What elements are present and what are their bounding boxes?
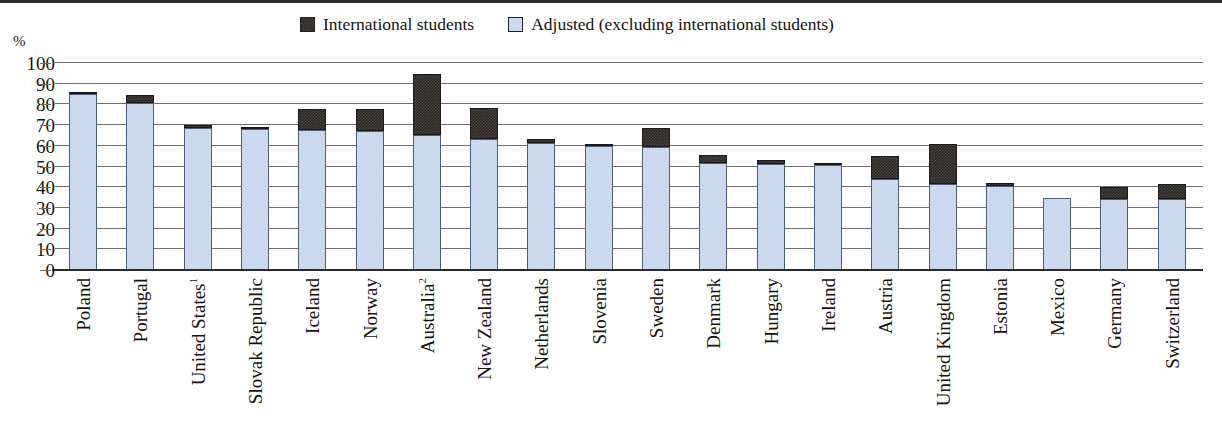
bar-segment-international xyxy=(929,144,957,184)
gridline-50 xyxy=(55,166,1203,167)
y-tick-mark-10 xyxy=(40,249,51,250)
gridline-30 xyxy=(55,207,1203,208)
legend-swatch-adjusted-icon xyxy=(508,17,523,32)
gridline-40 xyxy=(55,186,1203,187)
legend-swatch-international-students-icon xyxy=(300,17,315,32)
bar-segment-adjusted xyxy=(699,163,727,270)
gridline-90 xyxy=(55,83,1203,84)
chart-container: International students Adjusted (excludi… xyxy=(0,0,1222,433)
y-tick-mark-90 xyxy=(40,84,51,85)
bar-segment-adjusted xyxy=(184,128,212,270)
bar-segment-adjusted xyxy=(413,135,441,270)
y-tick-mark-20 xyxy=(40,229,51,230)
bar-segment-adjusted xyxy=(356,131,384,270)
bar-segment-international xyxy=(69,92,97,94)
bar-segment-adjusted xyxy=(642,147,670,270)
x-label-text: Ireland xyxy=(818,278,837,332)
x-label-text: Portugal xyxy=(131,278,150,342)
y-tick-mark-40 xyxy=(40,187,51,188)
x-label-text: Hungary xyxy=(761,278,780,344)
y-tick-mark-80 xyxy=(40,104,51,105)
y-tick-mark-0 xyxy=(40,270,51,271)
bar-segment-adjusted xyxy=(986,186,1014,270)
gridline-70 xyxy=(55,124,1203,125)
bar-segment-adjusted xyxy=(470,139,498,270)
x-label-footnote-marker: 2 xyxy=(416,278,428,284)
y-axis: 0102030405060708090100 xyxy=(0,63,55,271)
y-tick-mark-30 xyxy=(40,208,51,209)
bar-segment-international xyxy=(757,160,785,164)
y-tick-mark-100 xyxy=(40,63,51,64)
gridline-80 xyxy=(55,103,1203,104)
bar-segment-international xyxy=(184,125,212,128)
legend-entry-adjusted[interactable]: Adjusted (excluding international studen… xyxy=(508,14,834,34)
bar-segment-international xyxy=(1158,184,1186,198)
legend-entry-international-students[interactable]: International students xyxy=(300,14,474,34)
x-label-slovak-republic: Slovak Republic xyxy=(241,278,269,433)
x-label-footnote-marker: 1 xyxy=(187,278,199,284)
legend-label-international-students: International students xyxy=(323,14,474,34)
x-label-ireland: Ireland xyxy=(814,278,842,433)
bar-segment-international xyxy=(1100,187,1128,198)
x-label-text: Estonia xyxy=(990,278,1009,335)
bar-segment-adjusted xyxy=(757,164,785,270)
x-label-united-states: United States1 xyxy=(184,278,212,433)
x-axis-baseline xyxy=(52,269,1203,271)
bar-segment-adjusted xyxy=(69,94,97,270)
x-label-estonia: Estonia xyxy=(986,278,1014,433)
x-label-slovenia: Slovenia xyxy=(585,278,613,433)
x-label-text: Mexico xyxy=(1048,278,1067,336)
x-label-text: United Kingdom xyxy=(933,278,952,406)
bar-segment-international xyxy=(585,144,613,146)
bar-segment-international xyxy=(356,109,384,132)
bar-segment-international xyxy=(527,139,555,143)
bar-segment-international xyxy=(814,163,842,165)
bar-segment-adjusted xyxy=(527,143,555,270)
x-label-text: New Zealand xyxy=(475,278,494,380)
x-label-text: Denmark xyxy=(704,278,723,349)
x-axis-category-labels: PolandPortugalUnited States1Slovak Repub… xyxy=(55,272,1203,433)
x-label-iceland: Iceland xyxy=(298,278,326,433)
x-label-australia: Australia2 xyxy=(413,278,441,433)
x-label-mexico: Mexico xyxy=(1043,278,1071,433)
bar-segment-adjusted xyxy=(1158,199,1186,270)
x-label-norway: Norway xyxy=(356,278,384,433)
y-tick-mark-60 xyxy=(40,146,51,147)
x-label-sweden: Sweden xyxy=(642,278,670,433)
bar-segment-adjusted xyxy=(814,165,842,270)
gridline-60 xyxy=(55,145,1203,146)
y-tick-mark-70 xyxy=(40,125,51,126)
plot-area xyxy=(55,63,1203,270)
bar-segment-international xyxy=(986,183,1014,186)
bar-segment-international xyxy=(241,127,269,129)
x-label-hungary: Hungary xyxy=(757,278,785,433)
x-label-new-zealand: New Zealand xyxy=(470,278,498,433)
bar-segment-adjusted xyxy=(1043,198,1071,270)
bar-segment-international xyxy=(470,108,498,139)
x-label-portugal: Portugal xyxy=(126,278,154,433)
bar-segment-adjusted xyxy=(929,184,957,270)
y-tick-mark-50 xyxy=(40,167,51,168)
x-label-text: Sweden xyxy=(647,278,666,338)
x-label-text: Australia2 xyxy=(417,278,436,353)
gridline-20 xyxy=(55,228,1203,229)
x-label-denmark: Denmark xyxy=(699,278,727,433)
bar-segment-international xyxy=(126,95,154,103)
bar-segment-adjusted xyxy=(126,103,154,270)
x-label-netherlands: Netherlands xyxy=(527,278,555,433)
bar-segment-adjusted xyxy=(585,146,613,270)
legend-label-adjusted: Adjusted (excluding international studen… xyxy=(531,14,834,34)
x-label-text: United States1 xyxy=(188,278,207,385)
bar-segment-international xyxy=(699,155,727,163)
x-label-text: Poland xyxy=(74,278,93,331)
x-label-poland: Poland xyxy=(69,278,97,433)
top-divider-rule xyxy=(0,0,1222,3)
chart-legend: International students Adjusted (excludi… xyxy=(300,13,834,35)
bar-segment-international xyxy=(871,156,899,179)
x-label-text: Switzerland xyxy=(1162,278,1181,369)
x-label-austria: Austria xyxy=(871,278,899,433)
x-label-united-kingdom: United Kingdom xyxy=(929,278,957,433)
bar-segment-adjusted xyxy=(1100,199,1128,270)
x-label-text: Slovenia xyxy=(589,278,608,345)
x-label-text: Slovak Republic xyxy=(245,278,264,404)
